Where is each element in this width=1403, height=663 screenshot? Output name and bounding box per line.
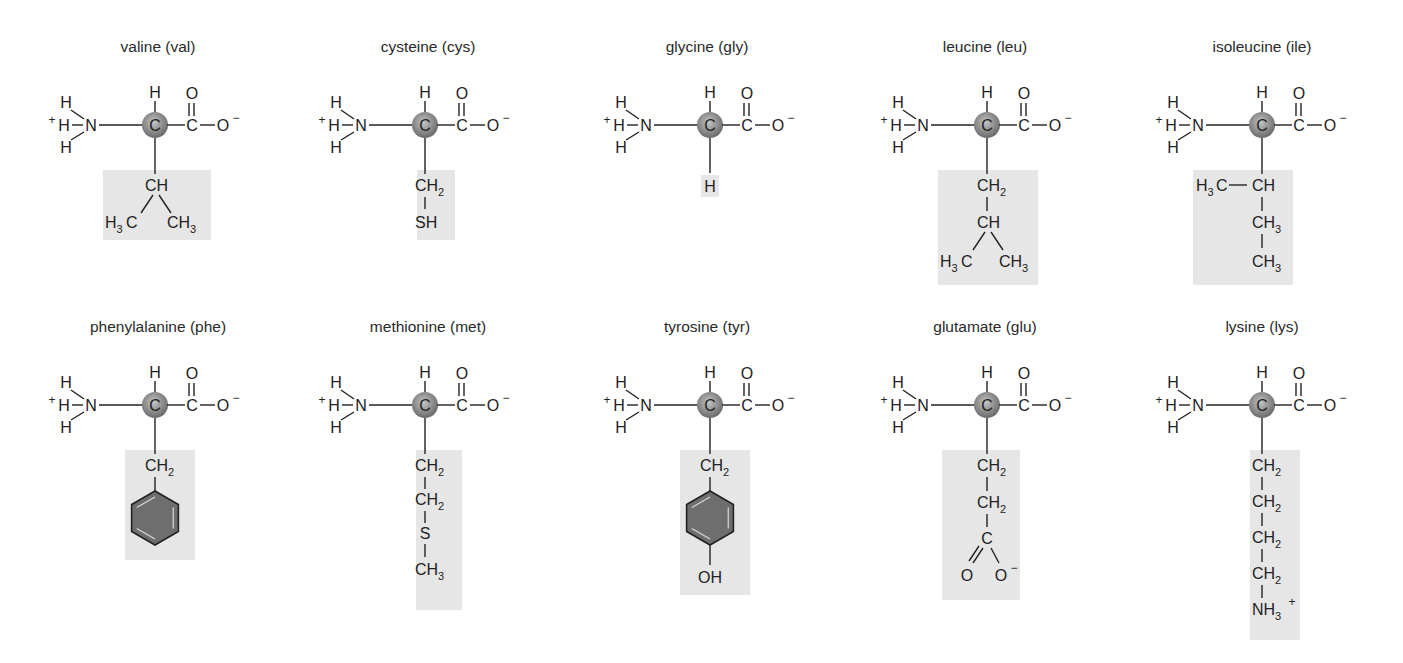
subscript: 2: [1275, 466, 1281, 478]
charge-minus: −: [787, 391, 794, 405]
atom-label: O: [1049, 117, 1061, 134]
amino-acid-panel: isoleucine (ile)+HNHHCHCOO−H3CCHCH3CH3: [1155, 38, 1346, 285]
alpha-carbon-label: C: [419, 117, 431, 134]
bond-line: [341, 110, 354, 119]
atom-label: C: [741, 397, 753, 414]
atom-label: O: [1293, 85, 1305, 102]
atom-label: N: [917, 397, 929, 414]
atom-label: H: [613, 397, 625, 414]
amino-acid-panel: valine (val)+HNHHCHCOO−CHH3CCH3: [48, 38, 239, 240]
subscript: 2: [438, 500, 444, 512]
atom-label: C: [981, 530, 993, 547]
atom-label: H: [615, 139, 627, 156]
atom-label: H: [1165, 117, 1177, 134]
atom-label: H: [149, 364, 161, 381]
atom-label: H: [330, 139, 342, 156]
charge-plus: +: [880, 113, 887, 127]
bond-line: [626, 390, 639, 399]
atom-label: SH: [415, 214, 437, 231]
atom-label: H: [58, 397, 70, 414]
atom-label: O: [1324, 397, 1336, 414]
amino-acid-name: glutamate (glu): [933, 318, 1036, 335]
bond-line: [626, 412, 639, 420]
charge-plus: +: [318, 393, 325, 407]
subscript: 2: [438, 466, 444, 478]
chemical-group: CH: [977, 214, 1000, 231]
atom-label: H: [1256, 364, 1268, 381]
atom-label: O: [772, 397, 784, 414]
subscript: 3: [190, 223, 196, 235]
charge-plus: +: [48, 393, 55, 407]
atom-label: N: [1192, 117, 1204, 134]
bond-line: [1178, 110, 1191, 119]
atom-label: H: [704, 178, 716, 195]
subscript: 3: [117, 223, 123, 235]
subscript: 2: [1275, 574, 1281, 586]
subscript: 2: [168, 466, 174, 478]
subscript: 3: [1208, 186, 1214, 198]
amino-acid-name: leucine (leu): [943, 38, 1027, 55]
charge-minus: −: [232, 111, 239, 125]
bond-line: [903, 412, 916, 420]
atom-label: O: [1018, 365, 1030, 382]
atom-label: H: [328, 397, 340, 414]
figure-canvas: valine (val)+HNHHCHCOO−CHH3CCH3cysteine …: [0, 0, 1403, 663]
atom-label: CH: [145, 177, 168, 194]
atom-label: C: [1293, 117, 1305, 134]
subscript: 2: [1000, 186, 1006, 198]
alpha-carbon-label: C: [1256, 117, 1268, 134]
subscript: 3: [1275, 610, 1281, 622]
alpha-carbon-label: C: [704, 397, 716, 414]
atom-label: H: [60, 139, 72, 156]
charge-plus: +: [48, 113, 55, 127]
subscript: 2: [723, 466, 729, 478]
atom-label: H: [1167, 94, 1179, 111]
amino-acid-panel: glutamate (glu)+HNHHCHCOO−CH2CH2COO−: [880, 318, 1071, 600]
amino-acid-panel: phenylalanine (phe)+HNHHCHCOO−CH2: [48, 318, 239, 560]
amino-acid-name: valine (val): [121, 38, 196, 55]
bond-line: [1178, 132, 1191, 140]
atom-label: O: [1018, 85, 1030, 102]
atom-label: O: [741, 85, 753, 102]
subscript: 3: [1275, 223, 1281, 235]
bond-line: [626, 110, 639, 119]
atom-label: H: [60, 419, 72, 436]
alpha-carbon-label: C: [981, 397, 993, 414]
atom-label: O: [1293, 365, 1305, 382]
atom-label: N: [85, 117, 97, 134]
subscript: 2: [438, 186, 444, 198]
subscript: 2: [1000, 466, 1006, 478]
atom-label: C: [456, 117, 468, 134]
charge-minus: −: [232, 391, 239, 405]
charge-minus: −: [1064, 391, 1071, 405]
atom-label: H: [1165, 397, 1177, 414]
atom-label: O: [487, 397, 499, 414]
atom-label: N: [917, 117, 929, 134]
atom-label: H: [419, 364, 431, 381]
atom-label: H: [615, 419, 627, 436]
subscript: 3: [952, 262, 958, 274]
alpha-carbon-label: C: [704, 117, 716, 134]
atom-label: O: [772, 117, 784, 134]
atom-label: O: [487, 117, 499, 134]
amino-acid-name: isoleucine (ile): [1212, 38, 1311, 55]
atom-label: H: [419, 84, 431, 101]
atom-label: O: [1324, 117, 1336, 134]
atom-label: C: [741, 117, 753, 134]
amino-acid-panel: cysteine (cys)+HNHHCHCOO−CH2SH: [318, 38, 509, 240]
atom-label: H: [1167, 139, 1179, 156]
atom-label: H: [981, 364, 993, 381]
amino-acid-panel: lysine (lys)+HNHHCHCOO−CH2CH2CH2CH2NH3+: [1155, 318, 1346, 640]
subscript: 3: [1275, 262, 1281, 274]
bond-line: [1178, 390, 1191, 399]
charge-plus: +: [318, 113, 325, 127]
atom-label: C: [126, 214, 138, 231]
amino-acid-name: cysteine (cys): [381, 38, 476, 55]
atom-label: N: [355, 397, 367, 414]
charge-plus: +: [1155, 113, 1162, 127]
atom-label: H: [892, 419, 904, 436]
atom-label: C: [1293, 397, 1305, 414]
atom-label: H: [704, 364, 716, 381]
charge-plus: +: [1155, 393, 1162, 407]
atom-label: N: [85, 397, 97, 414]
